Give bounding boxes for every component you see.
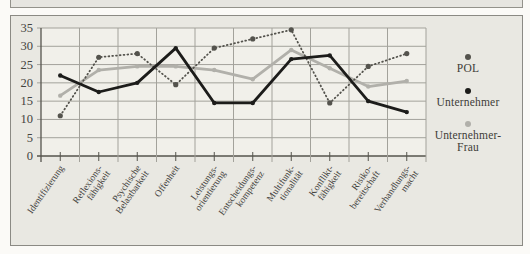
unternehmer-marker-icon [465, 88, 471, 94]
data-point-pol [366, 64, 371, 69]
data-point-pol [135, 51, 140, 56]
data-point-unternehmer-frau [366, 84, 370, 88]
data-point-unternehmer [405, 110, 409, 114]
y-axis-tick-label: 30 [21, 39, 34, 53]
x-axis-category-label: Offenheit [152, 163, 181, 199]
data-point-unternehmer [58, 73, 62, 77]
data-point-unternehmer [251, 101, 255, 105]
page-top-rule [10, 0, 523, 8]
data-point-pol [404, 51, 409, 56]
data-point-unternehmer [328, 53, 332, 57]
data-point-unternehmer [289, 57, 293, 61]
data-point-unternehmer [174, 46, 178, 50]
legend-label-unternehmer-frau: Unternehmer- Frau [435, 129, 502, 153]
x-axis-category-label: Identifizierung [25, 163, 66, 215]
chart-legend: POL Unternehmer Unternehmer- Frau [413, 54, 523, 166]
data-point-pol [212, 46, 217, 51]
chart-figure: 35302520151050IdentifizierungReflexions-… [10, 15, 523, 246]
data-point-pol [327, 100, 332, 105]
data-point-pol [96, 55, 101, 60]
data-point-unternehmer [366, 99, 370, 103]
data-point-unternehmer-frau [405, 79, 409, 83]
data-point-unternehmer-frau [174, 64, 178, 68]
data-point-unternehmer [97, 90, 101, 94]
data-point-unternehmer-frau [97, 68, 101, 72]
legend-label-unternehmer: Unternehmer [437, 96, 500, 108]
y-axis-tick-label: 35 [21, 21, 34, 35]
legend-item-unternehmer-frau: Unternehmer- Frau [413, 121, 523, 153]
x-axis-category-label: Reflexions-fähigkeit [71, 163, 113, 211]
x-axis-category-label: Konflikt-fähigkeit [307, 163, 343, 203]
data-point-unternehmer [212, 101, 216, 105]
x-axis-category-label: PsychischeBelastbarkeit [106, 163, 151, 216]
data-point-pol [289, 27, 294, 32]
legend-item-unternehmer: Unternehmer [413, 88, 523, 109]
legend-item-pol: POL [413, 54, 523, 75]
pol-marker-icon [465, 54, 471, 60]
y-axis-tick-label: 15 [21, 94, 34, 108]
data-point-unternehmer-frau [135, 64, 139, 68]
data-point-unternehmer [135, 81, 139, 85]
data-point-pol [250, 36, 255, 41]
x-axis-category-label: Verhandlungs-macht [372, 163, 420, 220]
y-axis-tick-label: 25 [21, 58, 34, 72]
data-point-unternehmer-frau [212, 68, 216, 72]
legend-label-pol: POL [457, 62, 479, 74]
x-axis-category-label: Multifunk-tionalität [265, 163, 305, 209]
y-axis-tick-label: 5 [27, 131, 33, 145]
y-axis-tick-label: 20 [21, 76, 34, 90]
y-axis-tick-label: 10 [21, 112, 34, 126]
data-point-unternehmer-frau [251, 77, 255, 81]
y-axis-tick-label: 0 [27, 149, 33, 163]
unternehmer-frau-marker-icon [465, 121, 471, 127]
data-point-unternehmer-frau [328, 66, 332, 70]
data-point-pol [173, 82, 178, 87]
data-point-pol [58, 113, 63, 118]
data-point-unternehmer-frau [58, 93, 62, 97]
data-point-unternehmer-frau [289, 48, 293, 52]
